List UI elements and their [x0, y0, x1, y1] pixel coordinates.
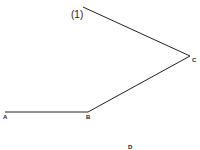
point-label-b: B	[86, 114, 90, 120]
point-label-a: A	[3, 114, 7, 120]
segment-bc	[88, 56, 190, 112]
point-label-c: C	[192, 57, 196, 63]
diagram-canvas	[0, 0, 200, 150]
segment-c-top	[83, 7, 190, 56]
figure-number-label: (1)	[71, 10, 83, 20]
point-label-d: D	[128, 144, 132, 150]
